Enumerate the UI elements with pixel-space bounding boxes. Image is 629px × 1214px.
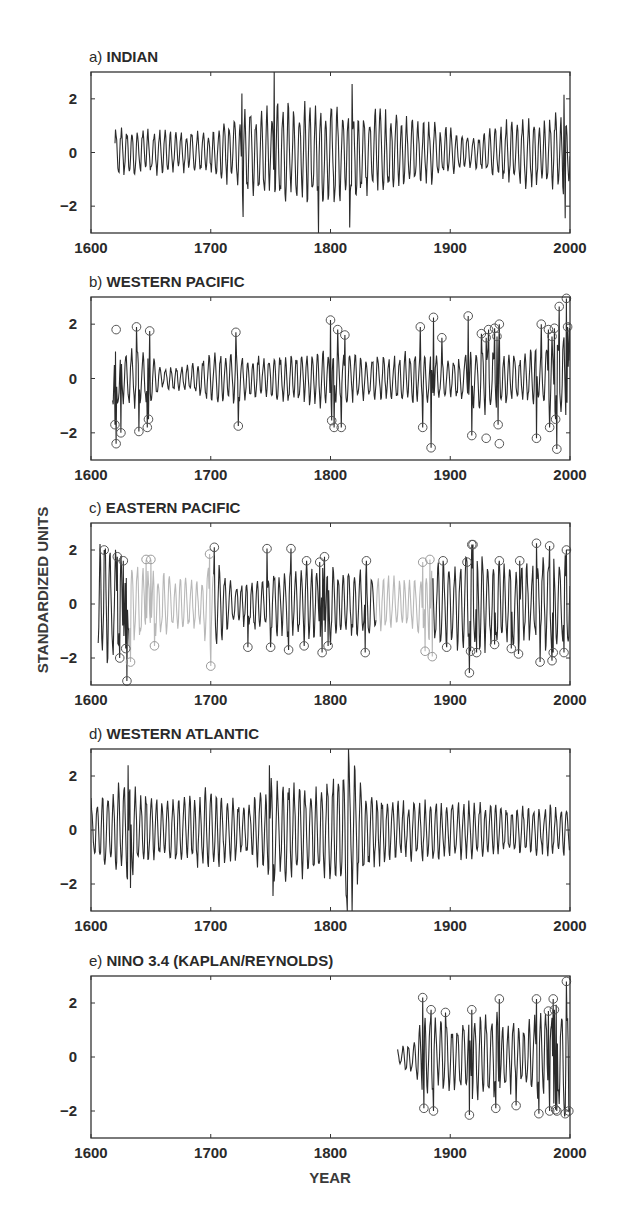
y-tick-label: −2 — [60, 1102, 77, 1119]
panel-title: b) WESTERN PACIFIC — [89, 273, 245, 290]
extreme-event-marker — [495, 439, 504, 448]
x-tick-label: 1900 — [434, 466, 467, 483]
x-tick-label: 1900 — [434, 239, 467, 256]
y-tick-label: 0 — [69, 1048, 77, 1065]
plot-frame — [91, 72, 570, 233]
x-tick-label: 1600 — [74, 691, 107, 708]
panel-title: c) EASTERN PACIFIC — [89, 499, 241, 516]
panel-d: d) WESTERN ATLANTIC16001700180019002000−… — [60, 725, 587, 934]
panel-title: a) INDIAN — [89, 48, 158, 65]
y-tick-label: 2 — [69, 767, 77, 784]
x-tick-label: 1800 — [314, 466, 347, 483]
y-tick-label: 2 — [69, 994, 77, 1011]
y-tick-label: −2 — [60, 424, 77, 441]
y-tick-label: 0 — [69, 370, 77, 387]
y-tick-label: 0 — [69, 595, 77, 612]
x-tick-label: 1600 — [74, 466, 107, 483]
series-line — [91, 749, 570, 911]
y-axis-label: STANDARDIZED UNITS — [34, 507, 51, 673]
x-tick-label: 2000 — [553, 239, 586, 256]
panels-container: a) INDIAN16001700180019002000−202b) WEST… — [60, 48, 587, 1161]
series-line — [113, 298, 570, 449]
y-tick-label: 2 — [69, 541, 77, 558]
x-tick-label: 2000 — [553, 1144, 586, 1161]
y-tick-label: −2 — [60, 875, 77, 892]
x-tick-label: 1700 — [194, 917, 227, 934]
series-line — [115, 72, 570, 233]
x-tick-label: 1700 — [194, 466, 227, 483]
panel-c: c) EASTERN PACIFIC16001700180019002000−2… — [60, 499, 587, 708]
x-tick-label: 1800 — [314, 1144, 347, 1161]
x-tick-label: 1700 — [194, 239, 227, 256]
y-tick-label: −2 — [60, 649, 77, 666]
extreme-event-marker — [112, 325, 121, 334]
x-tick-label: 2000 — [553, 466, 586, 483]
y-tick-label: 0 — [69, 144, 77, 161]
figure: STANDARDIZED UNITS YEAR a) INDIAN1600170… — [0, 0, 629, 1214]
x-axis-label: YEAR — [309, 1169, 351, 1186]
x-tick-label: 1600 — [74, 239, 107, 256]
x-tick-label: 2000 — [553, 691, 586, 708]
x-tick-label: 1900 — [434, 691, 467, 708]
x-tick-label: 1600 — [74, 917, 107, 934]
x-tick-label: 1900 — [434, 917, 467, 934]
y-tick-label: 0 — [69, 821, 77, 838]
x-tick-label: 1700 — [194, 1144, 227, 1161]
plot-frame — [91, 749, 570, 911]
x-tick-label: 2000 — [553, 917, 586, 934]
x-tick-label: 1800 — [314, 691, 347, 708]
extreme-event-marker — [482, 434, 491, 443]
x-tick-label: 1900 — [434, 1144, 467, 1161]
panel-a: a) INDIAN16001700180019002000−202 — [60, 48, 587, 256]
panel-e: e) NINO 3.4 (KAPLAN/REYNOLDS)16001700180… — [60, 952, 587, 1161]
x-tick-label: 1800 — [314, 239, 347, 256]
y-tick-label: 2 — [69, 315, 77, 332]
x-tick-label: 1800 — [314, 917, 347, 934]
series-line — [98, 543, 570, 681]
y-tick-label: −2 — [60, 197, 77, 214]
y-tick-label: 2 — [69, 90, 77, 107]
panel-title: e) NINO 3.4 (KAPLAN/REYNOLDS) — [89, 952, 333, 969]
panel-title: d) WESTERN ATLANTIC — [89, 725, 259, 742]
panel-b: b) WESTERN PACIFIC16001700180019002000−2… — [60, 273, 587, 483]
x-tick-label: 1600 — [74, 1144, 107, 1161]
x-tick-label: 1700 — [194, 691, 227, 708]
